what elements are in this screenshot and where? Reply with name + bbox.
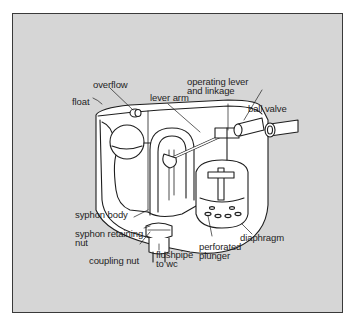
syphon-body [150,128,194,215]
label-overflow: overflow [93,80,128,89]
cistern-illustration [0,0,354,329]
label-lever-arm: lever arm [150,93,189,102]
float-ball [110,125,144,159]
label-syphon-body: syphon body [75,210,128,219]
label-perforated-plunger-line2: plunger [199,251,230,260]
label-flushpipe-line2: to wc [156,259,178,268]
label-ball-valve: ball valve [248,104,287,113]
syphon-retaining-nut [146,223,172,239]
label-float: float [72,97,89,106]
label-operating-lever-line2: and linkage [187,86,235,95]
label-diaphragm: diaphragm [240,233,284,242]
label-syphon-retaining-nut-line2: nut [75,238,88,247]
label-coupling-nut: coupling nut [89,256,139,265]
